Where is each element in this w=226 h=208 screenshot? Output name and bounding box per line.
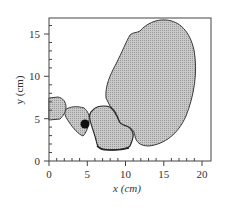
x-tick-10: 10	[120, 168, 132, 180]
x-tick-15: 15	[158, 168, 170, 180]
y-tick-5: 5	[35, 113, 41, 125]
x-tick-5: 5	[85, 168, 91, 180]
y-axis	[44, 26, 52, 162]
x-axis	[49, 158, 202, 166]
y-tick-0: 0	[35, 155, 41, 167]
chart: 0 5 10 15 0 5 10 15 20 x (cm) y (cm)	[0, 0, 226, 208]
source-dot	[81, 120, 90, 129]
x-tick-0: 0	[46, 168, 52, 180]
x-axis-label: x (cm)	[112, 182, 141, 195]
left-lobe	[49, 97, 66, 120]
y-tick-15: 15	[29, 28, 41, 40]
x-tick-20: 20	[197, 168, 209, 180]
y-axis-label: y (cm)	[13, 75, 26, 104]
y-tick-10: 10	[29, 70, 41, 82]
